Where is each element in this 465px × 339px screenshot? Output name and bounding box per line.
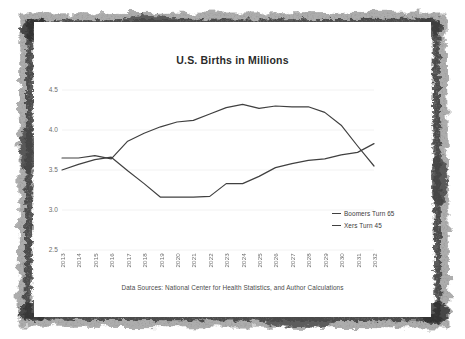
legend-line-swatch-boomers [332, 213, 341, 214]
x-tick-label-2024: 2024 [240, 253, 247, 268]
x-tick-label-2023: 2023 [223, 253, 230, 268]
x-tick-label-2020: 2020 [174, 253, 181, 268]
x-tick-label-2026: 2026 [272, 253, 279, 268]
x-axis-tick-labels: 2013201420152016201720182019202020212022… [62, 253, 374, 281]
x-tick-label-2018: 2018 [141, 253, 148, 268]
x-tick-label-2016: 2016 [108, 253, 115, 268]
x-tick-label-2015: 2015 [92, 253, 99, 268]
y-tick-label-2-5: 2.5 [34, 246, 58, 253]
x-tick-label-2021: 2021 [190, 253, 197, 268]
x-tick-label-2031: 2031 [355, 253, 362, 268]
x-tick-label-2028: 2028 [305, 253, 312, 268]
y-tick-label-3-0: 3.0 [34, 206, 58, 213]
series-line-boomers [62, 104, 374, 166]
legend-item-xers[interactable]: Xers Turn 45 [332, 220, 428, 230]
legend-item-boomers[interactable]: Boomers Turn 65 [332, 208, 428, 218]
x-tick-label-2030: 2030 [338, 253, 345, 268]
plot-area [62, 90, 374, 250]
x-tick-label-2027: 2027 [289, 253, 296, 268]
plot-svg [62, 90, 374, 250]
x-tick-label-2022: 2022 [207, 253, 214, 268]
y-tick-label-4-0: 4.0 [34, 126, 58, 133]
x-tick-label-2013: 2013 [59, 253, 66, 268]
chart-title: U.S. Births in Millions [34, 54, 431, 66]
x-tick-label-2025: 2025 [256, 253, 263, 268]
slide-image: U.S. Births in Millions 2.5 3.0 3.5 4.0 … [0, 0, 465, 339]
y-tick-label-3-5: 3.5 [34, 166, 58, 173]
series-lines [62, 104, 374, 197]
legend: Boomers Turn 65 Xers Turn 45 [332, 208, 428, 232]
legend-line-swatch-xers [332, 225, 341, 226]
x-tick-label-2029: 2029 [322, 253, 329, 268]
x-tick-label-2032: 2032 [371, 253, 378, 268]
y-tick-label-4-5: 4.5 [34, 86, 58, 93]
legend-label-boomers: Boomers Turn 65 [344, 210, 395, 217]
x-tick-label-2019: 2019 [158, 253, 165, 268]
legend-label-xers: Xers Turn 45 [344, 222, 382, 229]
chart-canvas: U.S. Births in Millions 2.5 3.0 3.5 4.0 … [34, 22, 431, 317]
source-note: Data Sources: National Center for Health… [34, 284, 431, 291]
x-tick-label-2014: 2014 [75, 253, 82, 268]
x-tick-label-2017: 2017 [125, 253, 132, 268]
